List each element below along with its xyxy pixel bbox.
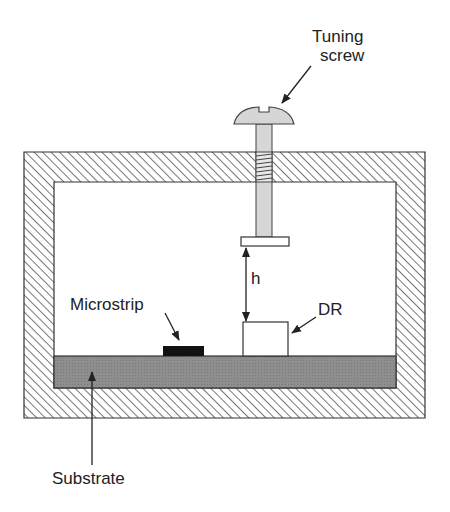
microstrip-line (163, 346, 204, 356)
dielectric-resonator (243, 322, 288, 356)
substrate-layer (54, 356, 396, 388)
tuning-screw-label-line1: Tuning (312, 27, 363, 46)
microstrip-label: Microstrip (70, 295, 144, 314)
tuning-screw-label-line2: screw (320, 46, 364, 65)
dr-label: DR (318, 300, 343, 319)
diagram-canvas (0, 0, 450, 512)
substrate-label: Substrate (52, 469, 125, 488)
tuning-screw-arrow (282, 66, 311, 103)
dr-arrow (292, 317, 316, 333)
microstrip-arrow (165, 313, 179, 340)
gap-label: h (251, 269, 260, 288)
